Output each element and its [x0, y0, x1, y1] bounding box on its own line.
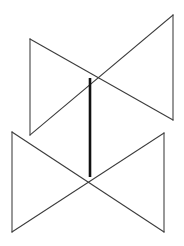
geometry-diagram-canvas: [0, 0, 184, 246]
diagram-background: [0, 0, 184, 246]
figure-root: [0, 0, 184, 246]
